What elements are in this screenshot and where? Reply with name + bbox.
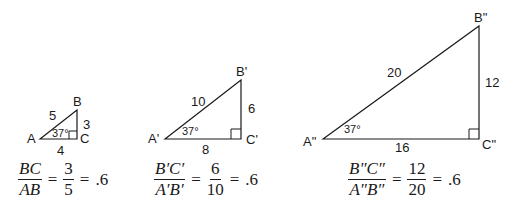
ratio-small: BCAB = 35 = .6: [18, 160, 108, 199]
equals-sign: =: [48, 170, 58, 190]
angle-large: 37°: [344, 123, 361, 135]
side-hyp-large: 20: [387, 65, 401, 80]
vertex-c-medium: C': [246, 132, 258, 147]
ratio-value-den-small: 5: [64, 180, 73, 199]
side-base-large: 16: [395, 140, 409, 155]
ratio-den-small: AB: [19, 180, 40, 199]
ratio-value-den-medium: 10: [207, 180, 224, 199]
ratio-value-num-medium: 6: [210, 160, 221, 180]
vertex-b-large: B": [474, 10, 488, 25]
side-vert-medium: 6: [248, 101, 255, 116]
ratio-medium: B′C′A′B′ = 610 = .6: [154, 160, 258, 199]
vertex-b-small: B: [73, 94, 82, 109]
side-base-small: 4: [57, 143, 64, 158]
side-vert-large: 12: [485, 75, 499, 90]
vertex-a-medium: A': [148, 131, 159, 146]
vertex-a-large: A": [303, 134, 317, 149]
side-base-medium: 8: [202, 142, 209, 157]
vertex-c-small: C: [80, 131, 89, 146]
equals-sign: =: [191, 170, 201, 190]
angle-medium: 37°: [182, 125, 199, 137]
vertex-a-small: A: [27, 131, 36, 146]
side-hyp-small: 5: [49, 108, 56, 123]
side-hyp-medium: 10: [191, 94, 205, 109]
ratio-result-medium: .6: [245, 170, 258, 190]
ratio-den-medium: A′B′: [155, 180, 183, 199]
ratio-result-small: .6: [95, 170, 108, 190]
ratio-den-large: A″B″: [349, 180, 384, 199]
ratio-value-den-large: 20: [408, 180, 425, 199]
ratio-value-num-large: 12: [407, 160, 426, 180]
triangle-medium: [165, 80, 241, 139]
equals-sign: =: [80, 170, 90, 190]
ratio-num-large: B″C″: [348, 160, 386, 180]
ratio-num-medium: B′C′: [154, 160, 185, 180]
equals-sign: =: [392, 170, 402, 190]
side-vert-small: 3: [83, 117, 90, 132]
angle-small: 37°: [52, 127, 69, 139]
ratio-num-small: BC: [18, 160, 42, 180]
vertex-b-medium: B': [236, 64, 247, 79]
ratio-value-num-small: 3: [63, 160, 74, 180]
vertex-c-large: C": [482, 137, 496, 152]
equals-sign: =: [432, 170, 442, 190]
equals-sign: =: [230, 170, 240, 190]
ratio-result-large: .6: [448, 170, 461, 190]
ratio-large: B″C″A″B″ = 1220 = .6: [348, 160, 461, 199]
